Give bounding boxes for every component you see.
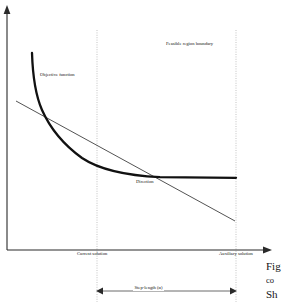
feasible-region-boundary-label: Feasible region boundary (166, 42, 213, 47)
direction-label: Direction (136, 180, 154, 185)
direction-line (16, 101, 235, 221)
figure-canvas: Objective function Feasible region bound… (0, 0, 301, 305)
current-solution-label: Current solution (77, 252, 107, 257)
caption-line-3: Sh (266, 287, 301, 302)
figure-caption: Fig co Sh (266, 259, 301, 302)
auxiliary-solution-label: Auxiliary solution (219, 252, 253, 257)
objective-function-label: Objective function (40, 73, 75, 78)
caption-line-2: co (266, 274, 301, 287)
caption-line-1: Fig (266, 259, 301, 274)
step-length-arrowhead-right-icon (230, 288, 237, 295)
optimization-line-chart (0, 0, 301, 305)
step-length-arrowhead-left-icon (96, 288, 103, 295)
x-axis-arrowhead-icon (263, 247, 272, 254)
step-length-label: Step-length (α) (133, 286, 164, 291)
y-axis-arrowhead-icon (4, 5, 11, 14)
